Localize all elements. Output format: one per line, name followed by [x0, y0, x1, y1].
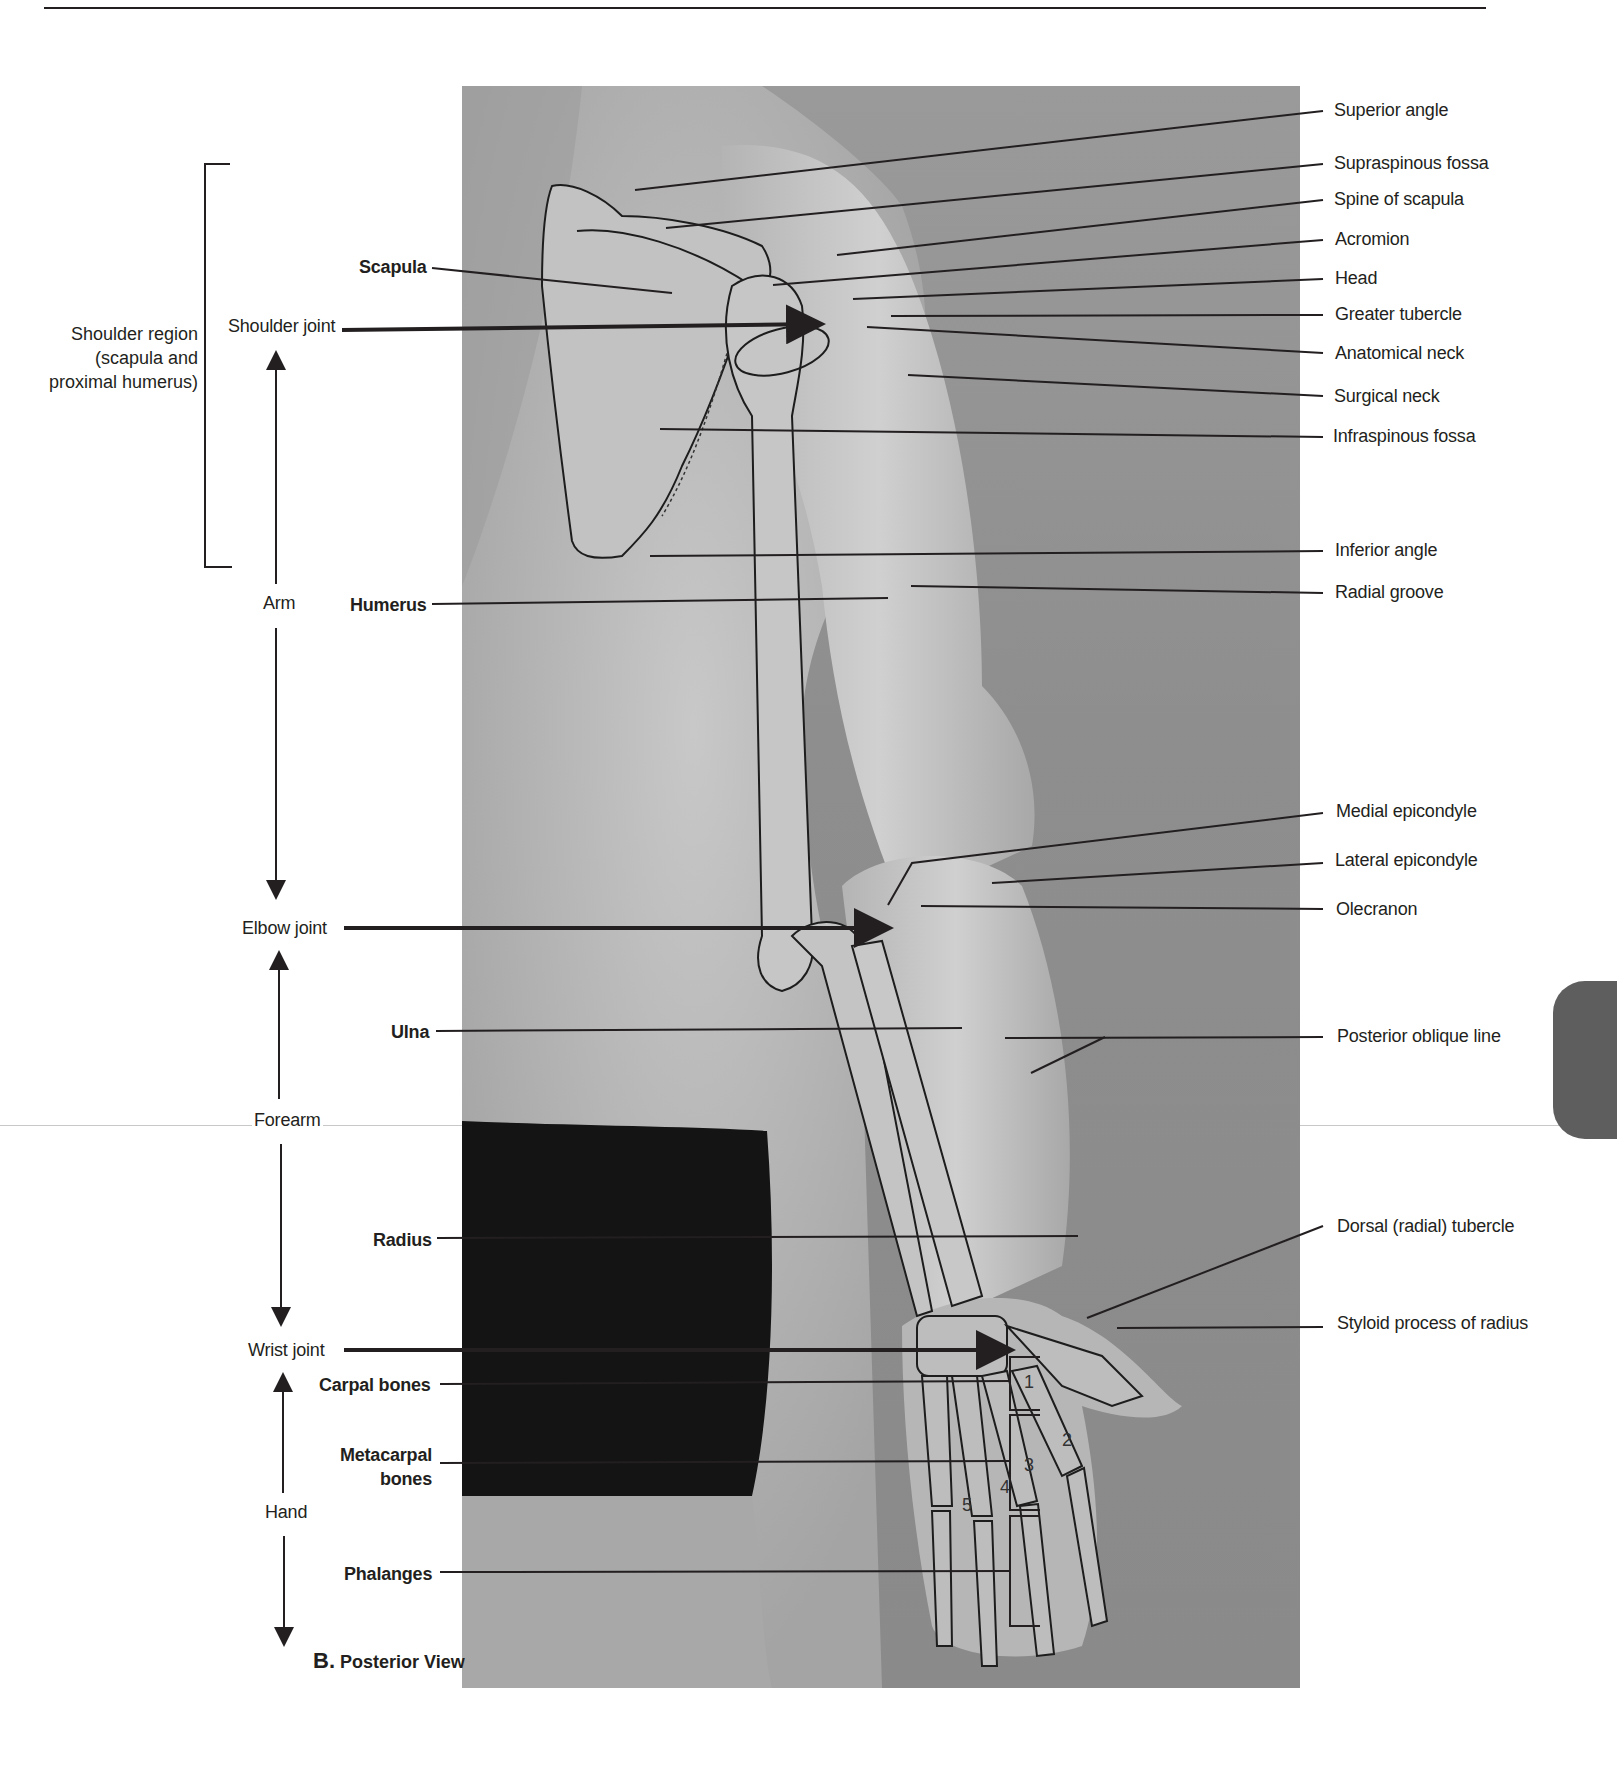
region-hand: Hand [265, 1502, 307, 1522]
anatomy-photo-posterior-arm: 1 2 3 4 5 [462, 86, 1300, 1688]
page-top-rule [44, 7, 1486, 9]
figure-caption: B. Posterior View [313, 1648, 465, 1674]
region-wrist-joint: Wrist joint [248, 1340, 324, 1360]
region-elbow-joint: Elbow joint [242, 918, 327, 938]
label-spine-of-scapula: Spine of scapula [1334, 189, 1464, 209]
label-supraspinous-fossa: Supraspinous fossa [1334, 153, 1489, 173]
metacarpal-number-4: 4 [1000, 1477, 1010, 1497]
label-radius: Radius [373, 1230, 432, 1250]
region-arm: Arm [263, 593, 295, 613]
label-humerus: Humerus [350, 595, 427, 615]
label-superior-angle: Superior angle [1334, 100, 1448, 120]
region-shoulder-region: Shoulder region (scapula and proximal hu… [40, 322, 198, 394]
metacarpal-number-1: 1 [1024, 1372, 1034, 1392]
label-medial-epicondyle: Medial epicondyle [1336, 801, 1477, 821]
label-head: Head [1335, 268, 1377, 288]
metacarpal-number-2: 2 [1062, 1430, 1072, 1450]
label-olecranon: Olecranon [1336, 899, 1417, 919]
label-acromion: Acromion [1335, 229, 1409, 249]
label-styloid-process-of-radius: Styloid process of radius [1337, 1313, 1528, 1333]
label-carpal-bones: Carpal bones [319, 1375, 431, 1395]
label-phalanges: Phalanges [344, 1564, 432, 1584]
label-lateral-epicondyle: Lateral epicondyle [1335, 850, 1478, 870]
chapter-thumb-tab [1553, 981, 1617, 1139]
label-metacarpal-bones: Metacarpal bones [326, 1443, 432, 1491]
label-dorsal-radial-tubercle: Dorsal (radial) tubercle [1337, 1216, 1514, 1236]
bone-illustration: 1 2 3 4 5 [462, 86, 1300, 1688]
label-radial-groove: Radial groove [1335, 582, 1443, 602]
panel-letter: B. [313, 1648, 335, 1673]
region-shoulder-joint: Shoulder joint [228, 316, 335, 336]
metacarpal-number-5: 5 [962, 1495, 972, 1515]
label-anatomical-neck: Anatomical neck [1335, 343, 1464, 363]
label-posterior-oblique-line: Posterior oblique line [1337, 1026, 1501, 1046]
label-ulna: Ulna [391, 1022, 429, 1042]
label-greater-tubercle: Greater tubercle [1335, 304, 1462, 324]
label-scapula: Scapula [359, 257, 427, 277]
label-surgical-neck: Surgical neck [1334, 386, 1439, 406]
label-infraspinous-fossa: Infraspinous fossa [1333, 426, 1475, 446]
metacarpal-number-3: 3 [1024, 1455, 1034, 1475]
panel-title: Posterior View [340, 1652, 465, 1672]
label-inferior-angle: Inferior angle [1335, 540, 1437, 560]
region-forearm: Forearm [252, 1110, 323, 1130]
